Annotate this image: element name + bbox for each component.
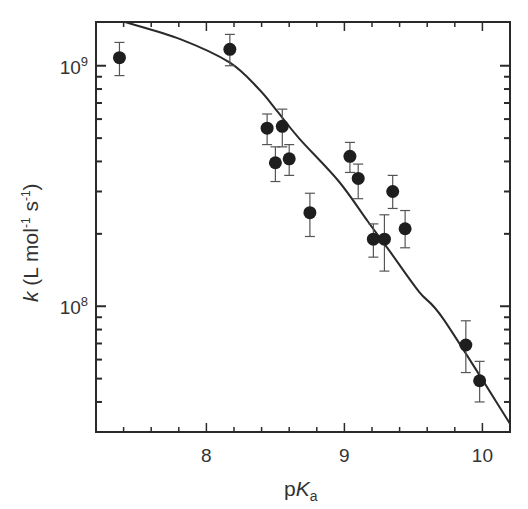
fit-curve xyxy=(125,22,510,424)
data-point xyxy=(399,211,412,248)
fit-line xyxy=(125,22,510,424)
data-point xyxy=(283,145,296,176)
x-tick-label: 10 xyxy=(472,445,493,466)
data-point xyxy=(367,224,380,257)
data-point xyxy=(343,142,356,172)
data-point xyxy=(261,114,274,145)
data-point xyxy=(352,164,365,199)
data-point xyxy=(113,42,126,75)
x-tick-label: 8 xyxy=(201,445,212,466)
x-axis-title: pKa xyxy=(284,477,318,504)
plot-border xyxy=(96,22,510,432)
data-point xyxy=(303,193,316,236)
data-point xyxy=(269,147,282,182)
data-point xyxy=(459,321,472,373)
y-tick-label: 108 xyxy=(60,294,88,318)
data-point xyxy=(223,34,236,65)
x-tick-label: 9 xyxy=(339,445,350,466)
data-points xyxy=(113,34,486,402)
y-axis-ticks: 108109 xyxy=(60,54,510,432)
chart-canvas: 8910 108109 pKa k (L mol-1 s-1) xyxy=(0,0,528,509)
data-point xyxy=(276,109,289,147)
plot-frame xyxy=(96,22,510,432)
x-axis-ticks: 8910 xyxy=(96,22,510,466)
data-point xyxy=(378,215,391,271)
data-point xyxy=(386,175,399,208)
y-tick-label: 109 xyxy=(60,54,88,78)
y-axis-title: k (L mol-1 s-1) xyxy=(19,183,42,302)
